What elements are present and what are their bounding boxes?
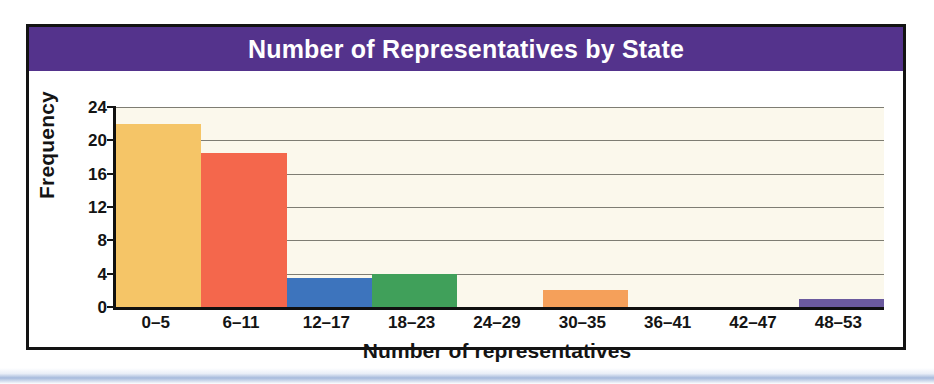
y-axis-tick-label: 8 — [69, 232, 107, 249]
axis-tick — [107, 106, 116, 108]
x-axis-tick-label: 24–29 — [473, 313, 520, 333]
x-axis-tick-label: 48–53 — [815, 313, 862, 333]
axis-tick — [107, 206, 116, 208]
bar-series — [116, 107, 884, 307]
x-axis-tick-label: 6–11 — [223, 313, 260, 333]
y-axis-tick-labels: 04812162024 — [69, 107, 107, 307]
x-axis-tick-labels: 0–56–1112–1718–2324–2930–3536–4142–4748–… — [113, 313, 881, 337]
y-axis-tick-label: 20 — [69, 132, 107, 149]
axis-tick — [107, 139, 116, 141]
bar — [799, 299, 884, 307]
y-axis-tick-label: 0 — [69, 299, 107, 316]
chart-body: Frequency 04812162024 0–56–1112–1718–232… — [29, 71, 903, 347]
y-axis-tick-label: 12 — [69, 199, 107, 216]
chart-title-banner: Number of Representatives by State — [29, 27, 903, 71]
axis-tick — [107, 273, 116, 275]
y-axis-tick-label: 4 — [69, 265, 107, 282]
bar — [116, 124, 201, 307]
axis-tick — [107, 306, 116, 308]
y-axis-tick-label: 24 — [69, 99, 107, 116]
x-axis-tick-label: 18–23 — [388, 313, 435, 333]
page-edge-strip — [0, 368, 934, 384]
bar — [201, 153, 286, 307]
figure-frame: Number of Representatives by State Frequ… — [26, 24, 906, 350]
x-axis-tick-label: 12–17 — [303, 313, 350, 333]
x-axis-tick-label: 42–47 — [729, 313, 776, 333]
x-axis-title: Number of representatives — [113, 339, 881, 363]
y-axis-title: Frequency — [35, 175, 59, 199]
x-axis-tick-label: 36–41 — [644, 313, 691, 333]
x-axis-tick-label: 0–5 — [141, 313, 169, 333]
bar — [372, 274, 457, 307]
axis-tick — [107, 239, 116, 241]
bar — [543, 290, 628, 307]
page-title: Number of Representatives by State — [248, 35, 684, 64]
x-axis-tick-label: 30–35 — [559, 313, 606, 333]
axis-tick — [107, 173, 116, 175]
bar — [287, 278, 372, 307]
y-axis-tick-label: 16 — [69, 165, 107, 182]
plot-area — [113, 107, 884, 310]
